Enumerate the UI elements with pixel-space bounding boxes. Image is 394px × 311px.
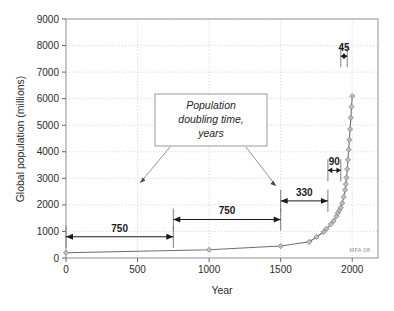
x-axis-ticks [66,258,352,262]
y-tick-label: 6000 [37,93,60,104]
annotation-label: 750 [219,205,236,216]
annotation-label: 330 [296,187,313,198]
y-tick-label: 2000 [37,199,60,210]
y-tick-label: 3000 [37,173,60,184]
callout-line-3: years [197,127,224,139]
x-tick-label: 2000 [341,264,364,275]
annotation-label: 45 [338,42,350,53]
y-tick-label: 1000 [37,226,60,237]
callout-line-1: Population [186,99,236,111]
x-tick-label: 1500 [270,264,293,275]
x-tick-label: 0 [63,264,69,275]
y-tick-label: 4000 [37,146,60,157]
y-tick-label: 7000 [37,67,60,78]
y-tick-label: 8000 [37,40,60,51]
y-tick-label: 9000 [37,14,60,25]
y-tick-label: 0 [53,253,59,264]
x-tick-label: 1000 [198,264,221,275]
y-axis-tick-labels: 0100020003000400050006000700080009000 [37,14,60,264]
y-axis-ticks [62,19,66,258]
callout-box: Population doubling time, years [155,94,267,146]
x-axis-title: Year [211,284,233,296]
watermark-label: MFA 08 [350,247,370,253]
y-tick-label: 5000 [37,120,60,131]
callout-line-2: doubling time, [178,113,243,125]
annotation-label: 750 [111,223,128,234]
population-growth-figure: 0100020003000400050006000700080009000 05… [0,0,394,311]
annotation-label: 90 [329,156,341,167]
chart-canvas: 0100020003000400050006000700080009000 05… [0,0,394,311]
x-tick-label: 500 [129,264,146,275]
x-axis-tick-labels: 0500100015002000 [63,264,364,275]
y-axis-title: Global population (millions) [14,76,26,203]
